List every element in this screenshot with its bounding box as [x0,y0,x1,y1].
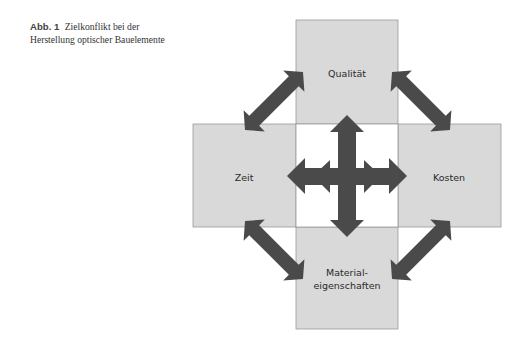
label-time: Zeit [235,172,254,183]
box-material-properties [296,227,398,329]
label-quality: Qualität [328,68,366,79]
label-cost: Kosten [433,172,465,183]
goal-conflict-diagram: Qualität Zeit Kosten Material- eigenscha… [0,0,528,345]
label-material-line1: Material- [326,267,368,278]
label-material-line2: eigenschaften [313,280,380,291]
